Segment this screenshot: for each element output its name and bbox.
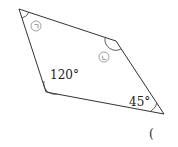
angle-label-b: ㄴ <box>101 54 107 62</box>
angle-45-label: 45° <box>129 95 150 109</box>
angle-120-label: 120° <box>50 68 79 82</box>
quadrilateral-figure: ㄱ ㄴ 120° 45° ( <box>0 0 178 147</box>
angle-label-a: ㄱ <box>33 23 39 31</box>
angle-arc-top-left <box>22 12 29 18</box>
angle-arc-bottom-right <box>151 103 157 111</box>
answer-paren: ( <box>149 127 154 141</box>
